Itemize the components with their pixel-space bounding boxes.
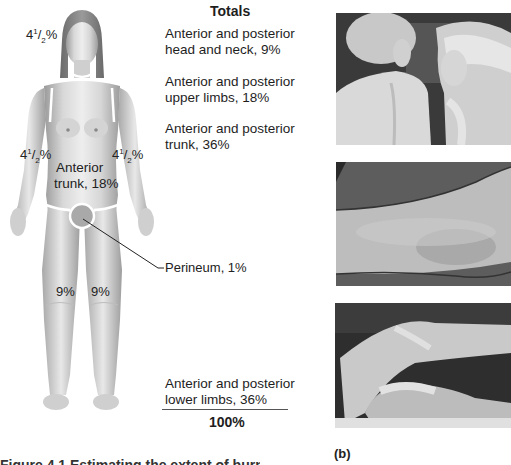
right-leg-percent-label: 9% bbox=[91, 285, 110, 299]
figure-caption-partial: Figure 4.1 Estimating the extent of burn… bbox=[0, 458, 260, 465]
anterior-trunk-label: Anterior trunk, 18% bbox=[54, 160, 119, 192]
totals-item-head-neck: Anterior and posterior head and neck, 9% bbox=[165, 26, 295, 58]
totals-item-upper-limbs: Anterior and posterior upper limbs, 18% bbox=[165, 74, 295, 106]
head-percent-label: 41/2% bbox=[26, 28, 57, 42]
totals-sum: 100% bbox=[209, 414, 245, 430]
totals-item-lower-limbs: Anterior and posterior lower limbs, 36% bbox=[165, 376, 295, 408]
leg-burn-photo bbox=[335, 303, 511, 428]
totals-divider bbox=[162, 409, 288, 410]
left-arm-percent-label: 41/2% bbox=[20, 148, 51, 162]
totals-item-trunk: Anterior and posterior trunk, 36% bbox=[165, 121, 295, 153]
totals-heading: Totals bbox=[210, 3, 250, 19]
panel-b-label: (b) bbox=[334, 446, 351, 461]
left-leg-percent-label: 9% bbox=[56, 285, 75, 299]
perineum-label: Perineum, 1% bbox=[165, 261, 247, 275]
arm-burn-photo bbox=[336, 162, 511, 286]
sunburn-back-photo bbox=[336, 13, 511, 145]
